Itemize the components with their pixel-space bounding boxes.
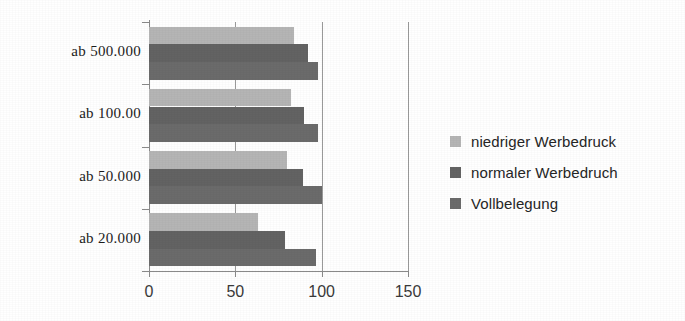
bar bbox=[149, 231, 285, 249]
legend-label: Vollbelegung bbox=[471, 195, 558, 212]
legend-label: normaler Werbedruch bbox=[471, 164, 618, 181]
x-tick-label: 50 bbox=[226, 283, 244, 301]
bar bbox=[149, 27, 294, 45]
y-category-label: ab 50.000 bbox=[1, 168, 141, 185]
x-axis-tick-150 bbox=[408, 271, 409, 277]
y-axis-tick bbox=[142, 271, 149, 272]
bar bbox=[149, 213, 258, 231]
bar bbox=[149, 124, 318, 142]
bar bbox=[149, 169, 303, 187]
x-tick-label: 150 bbox=[395, 283, 422, 301]
chart-legend: niedriger Werbedrucknormaler WerbedruchV… bbox=[450, 126, 675, 219]
y-axis-tick bbox=[142, 209, 149, 210]
legend-swatch-icon bbox=[450, 167, 461, 178]
y-category-label: ab 100.00 bbox=[1, 105, 141, 122]
bar bbox=[149, 107, 304, 125]
plot-area bbox=[149, 22, 408, 270]
x-axis-tick-100 bbox=[322, 271, 323, 277]
legend-item: normaler Werbedruch bbox=[450, 157, 675, 188]
x-axis-tick-labels: 050100150 bbox=[149, 283, 409, 307]
y-category-label: ab 20.000 bbox=[1, 230, 141, 247]
bar-chart-figure: ab 500.000ab 100.00ab 50.000ab 20.000 05… bbox=[0, 0, 685, 321]
y-category-label: ab 500.000 bbox=[1, 43, 141, 60]
y-axis-tick bbox=[142, 22, 149, 23]
bar bbox=[149, 186, 322, 204]
legend-swatch-icon bbox=[450, 198, 461, 209]
y-axis-category-labels: ab 500.000ab 100.00ab 50.000ab 20.000 bbox=[0, 22, 141, 271]
legend-swatch-icon bbox=[450, 136, 461, 147]
y-axis-tick bbox=[142, 147, 149, 148]
x-tick-label: 100 bbox=[308, 283, 335, 301]
bar bbox=[149, 151, 287, 169]
bar bbox=[149, 62, 318, 80]
legend-item: Vollbelegung bbox=[450, 188, 675, 219]
gridline-x-150 bbox=[408, 22, 409, 271]
x-tick-label: 0 bbox=[145, 283, 154, 301]
y-axis-tick bbox=[142, 84, 149, 85]
legend-item: niedriger Werbedruck bbox=[450, 126, 675, 157]
bar bbox=[149, 249, 316, 267]
bar bbox=[149, 44, 308, 62]
x-axis-tick-50 bbox=[235, 271, 236, 277]
x-axis-line bbox=[149, 271, 409, 272]
bar bbox=[149, 89, 291, 107]
x-axis-tick-0 bbox=[149, 271, 150, 277]
legend-label: niedriger Werbedruck bbox=[471, 133, 616, 150]
